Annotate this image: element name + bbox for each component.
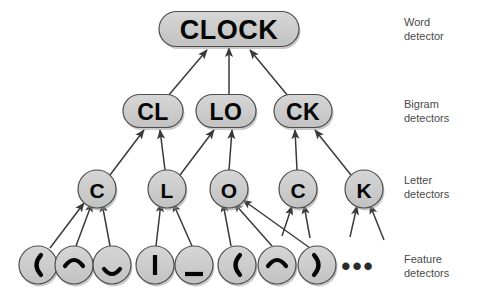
edge-feature-letter-0 bbox=[50, 203, 84, 248]
word-node-clock[interactable]: CLOCK bbox=[159, 12, 301, 50]
row-label-letter: Letterdetectors bbox=[404, 174, 450, 200]
row-label-line1: Word bbox=[404, 16, 430, 28]
node-text: C bbox=[89, 179, 104, 202]
row-label-line2: detectors bbox=[404, 267, 450, 279]
node-text: O bbox=[221, 179, 237, 202]
row-label-line2: detector bbox=[404, 30, 444, 42]
letter-node-l-k[interactable]: K bbox=[345, 170, 385, 211]
edge-letter-bigram-5 bbox=[315, 130, 351, 175]
feature-node-arc-up-1[interactable] bbox=[55, 246, 95, 287]
feature-node-underscore-4[interactable] bbox=[175, 246, 215, 287]
edge-feature-letter-4 bbox=[173, 203, 192, 246]
row-label-line2: detectors bbox=[404, 112, 450, 124]
letter-node-l-o[interactable]: O bbox=[210, 170, 250, 211]
node-text: C bbox=[290, 179, 305, 202]
row-label-bigram: Bigramdetectors bbox=[404, 98, 450, 124]
node-text: CL bbox=[137, 99, 169, 125]
edge-feature-letter-3 bbox=[156, 203, 161, 246]
word-detector-layer: CLOCK bbox=[159, 12, 301, 50]
node-text: K bbox=[356, 179, 371, 202]
node-text: CK bbox=[286, 99, 320, 125]
edge-letter-bigram-4 bbox=[295, 130, 297, 170]
bigram-node-ck[interactable]: CK bbox=[274, 95, 334, 131]
edge-bigram-word-2 bbox=[250, 50, 288, 96]
bigram-detector-layer: CLLOCK bbox=[123, 95, 334, 131]
diagram-canvas: CLOCK CLLOCK CLOCK ••• WorddetectorBigra… bbox=[0, 0, 478, 294]
feature-node-left-paren-5[interactable] bbox=[218, 246, 258, 287]
feature-ellipsis: ••• bbox=[341, 251, 374, 281]
node-text: L bbox=[161, 179, 174, 202]
edge-bigram-word-0 bbox=[168, 50, 207, 96]
row-labels: WorddetectorBigramdetectorsLetterdetecto… bbox=[404, 16, 450, 279]
letter-node-l-c2[interactable]: C bbox=[279, 170, 319, 211]
edge-letter-bigram-2 bbox=[180, 130, 214, 175]
edge-open-letter-3 bbox=[370, 205, 384, 240]
edge-open-letter-2 bbox=[350, 206, 357, 237]
feature-node-vertical-bar-3[interactable] bbox=[136, 246, 176, 287]
edge-feature-letter-6 bbox=[234, 203, 272, 246]
edge-letter-bigram-3 bbox=[229, 130, 232, 170]
ellipsis-text: ••• bbox=[341, 251, 374, 281]
letter-detector-layer: CLOCK bbox=[78, 170, 385, 211]
letter-node-l-l[interactable]: L bbox=[148, 170, 188, 211]
feature-node-right-paren-7[interactable] bbox=[298, 246, 338, 287]
bigram-node-lo[interactable]: LO bbox=[196, 95, 258, 131]
node-text: LO bbox=[210, 99, 243, 125]
feature-detector-layer bbox=[19, 246, 338, 287]
edge-open-letter-1 bbox=[304, 205, 310, 238]
bigram-node-cl[interactable]: CL bbox=[123, 95, 185, 131]
row-label-line1: Bigram bbox=[404, 98, 439, 110]
feature-node-left-paren-0[interactable] bbox=[19, 246, 59, 287]
row-label-line1: Letter bbox=[404, 174, 432, 186]
edges-bigram-to-word bbox=[168, 48, 288, 96]
feature-node-arc-up-6[interactable] bbox=[258, 246, 298, 287]
feature-node-arc-down-2[interactable] bbox=[93, 246, 133, 287]
node-shape bbox=[55, 246, 93, 284]
edge-letter-bigram-1 bbox=[160, 130, 165, 170]
row-label-line2: detectors bbox=[404, 188, 450, 200]
node-shape bbox=[93, 246, 131, 284]
edge-letter-bigram-0 bbox=[110, 130, 144, 175]
node-shape bbox=[175, 246, 213, 284]
row-label-word: Worddetector bbox=[404, 16, 444, 42]
edges-letter-to-bigram bbox=[110, 130, 351, 175]
row-label-line1: Feature bbox=[404, 253, 442, 265]
node-text: CLOCK bbox=[180, 15, 279, 45]
row-label-feature: Featuredetectors bbox=[404, 253, 450, 279]
hierarchy-diagram: CLOCK CLLOCK CLOCK ••• WorddetectorBigra… bbox=[0, 0, 478, 294]
node-shape bbox=[258, 246, 296, 284]
letter-node-l-c1[interactable]: C bbox=[78, 170, 118, 211]
